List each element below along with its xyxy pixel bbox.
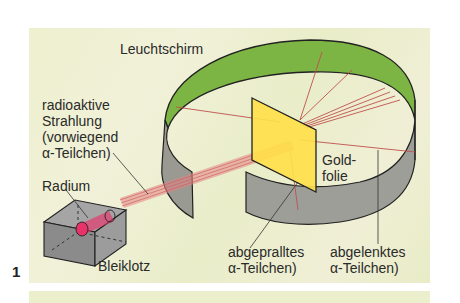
- label-radium: Radium: [42, 178, 90, 194]
- label-bleiklotz: Bleiklotz: [98, 258, 150, 274]
- label-leuchtschirm: Leuchtschirm: [120, 41, 203, 57]
- label-radiation-4: α-Teilchen): [42, 145, 111, 161]
- label-deflected-1: abgelenktes: [330, 244, 406, 260]
- label-radiation-1: radioaktive: [42, 97, 110, 113]
- label-radiation-3: (vorwiegend: [42, 129, 118, 145]
- label-deflected-2: α-Teilchen): [330, 260, 399, 276]
- label-rebounded-1: abgepralltes: [228, 244, 304, 260]
- label-gold-2: folie: [322, 168, 348, 184]
- label-rebounded-2: α-Teilchen): [228, 260, 297, 276]
- label-gold-1: Gold-: [322, 152, 356, 168]
- label-radiation-2: Strahlung: [42, 113, 102, 129]
- ring-left-segment: [162, 120, 193, 218]
